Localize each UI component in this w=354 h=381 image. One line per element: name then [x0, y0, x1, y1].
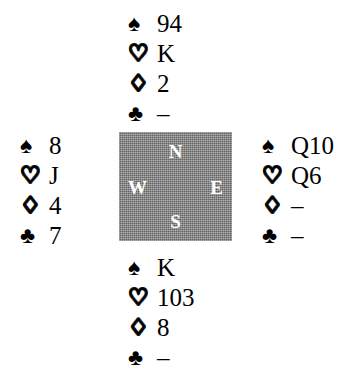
- diamond-icon: ♢: [20, 194, 46, 217]
- west-club-cards: 7: [46, 223, 62, 248]
- hand-south: ♠ K ♡ 103 ♢ 8 ♣ –: [128, 252, 195, 372]
- north-spade-cards: 94: [154, 11, 182, 36]
- west-diamond-row: ♢ 4: [20, 190, 62, 220]
- south-heart-row: ♡ 103: [128, 282, 195, 312]
- diamond-icon: ♢: [128, 316, 154, 339]
- diamond-icon: ♢: [128, 72, 154, 95]
- west-diamond-cards: 4: [46, 193, 62, 218]
- south-spade-row: ♠ K: [128, 252, 195, 282]
- north-club-cards: –: [154, 101, 170, 126]
- north-spade-row: ♠ 94: [128, 8, 182, 38]
- club-icon: ♣: [128, 102, 154, 125]
- bridge-hand-diagram: ♠ 94 ♡ K ♢ 2 ♣ – ♠ 8 ♡ J ♢ 4 ♣: [0, 0, 354, 381]
- hand-west: ♠ 8 ♡ J ♢ 4 ♣ 7: [20, 130, 62, 250]
- spade-icon: ♠: [20, 134, 46, 157]
- heart-icon: ♡: [262, 164, 288, 187]
- south-spade-cards: K: [154, 255, 175, 280]
- heart-icon: ♡: [128, 286, 154, 309]
- club-icon: ♣: [20, 224, 46, 247]
- north-club-row: ♣ –: [128, 98, 182, 128]
- hand-north: ♠ 94 ♡ K ♢ 2 ♣ –: [128, 8, 182, 128]
- west-spade-row: ♠ 8: [20, 130, 62, 160]
- south-club-row: ♣ –: [128, 342, 195, 372]
- north-heart-row: ♡ K: [128, 38, 182, 68]
- east-club-row: ♣ –: [262, 220, 334, 250]
- compass-label-north: N: [119, 142, 232, 161]
- spade-icon: ♠: [128, 12, 154, 35]
- east-heart-row: ♡ Q6: [262, 160, 334, 190]
- compass-label-east: E: [210, 177, 223, 196]
- west-heart-cards: J: [46, 163, 59, 188]
- south-heart-cards: 103: [154, 285, 195, 310]
- club-icon: ♣: [128, 346, 154, 369]
- west-club-row: ♣ 7: [20, 220, 62, 250]
- west-spade-cards: 8: [46, 133, 62, 158]
- north-diamond-row: ♢ 2: [128, 68, 182, 98]
- south-diamond-row: ♢ 8: [128, 312, 195, 342]
- spade-icon: ♠: [128, 256, 154, 279]
- west-heart-row: ♡ J: [20, 160, 62, 190]
- north-diamond-cards: 2: [154, 71, 170, 96]
- north-heart-cards: K: [154, 41, 175, 66]
- hand-east: ♠ Q10 ♡ Q6 ♢ – ♣ –: [262, 130, 334, 250]
- east-spade-row: ♠ Q10: [262, 130, 334, 160]
- east-club-cards: –: [288, 223, 304, 248]
- diamond-icon: ♢: [262, 194, 288, 217]
- east-diamond-row: ♢ –: [262, 190, 334, 220]
- heart-icon: ♡: [20, 164, 46, 187]
- east-diamond-cards: –: [288, 193, 304, 218]
- compass-box: N W E S: [119, 132, 232, 241]
- compass-label-west: W: [128, 177, 147, 196]
- south-club-cards: –: [154, 345, 170, 370]
- club-icon: ♣: [262, 224, 288, 247]
- heart-icon: ♡: [128, 42, 154, 65]
- spade-icon: ♠: [262, 134, 288, 157]
- south-diamond-cards: 8: [154, 315, 170, 340]
- east-spade-cards: Q10: [288, 133, 334, 158]
- compass-label-south: S: [119, 212, 232, 231]
- east-heart-cards: Q6: [288, 163, 322, 188]
